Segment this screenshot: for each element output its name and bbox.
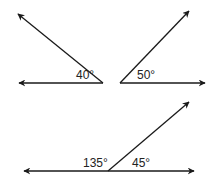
angle-diagram: 40° 50° 135° 45° [0, 0, 213, 187]
angle-135-label: 135° [83, 156, 108, 170]
angle-50-label: 50° [137, 68, 155, 82]
angle-50-figure: 50° [120, 11, 205, 83]
angle-40-label: 40° [76, 68, 94, 82]
angle-45-label: 45° [132, 156, 150, 170]
angle-40-figure: 40° [18, 14, 103, 83]
linear-pair-figure: 135° 45° [24, 102, 194, 171]
